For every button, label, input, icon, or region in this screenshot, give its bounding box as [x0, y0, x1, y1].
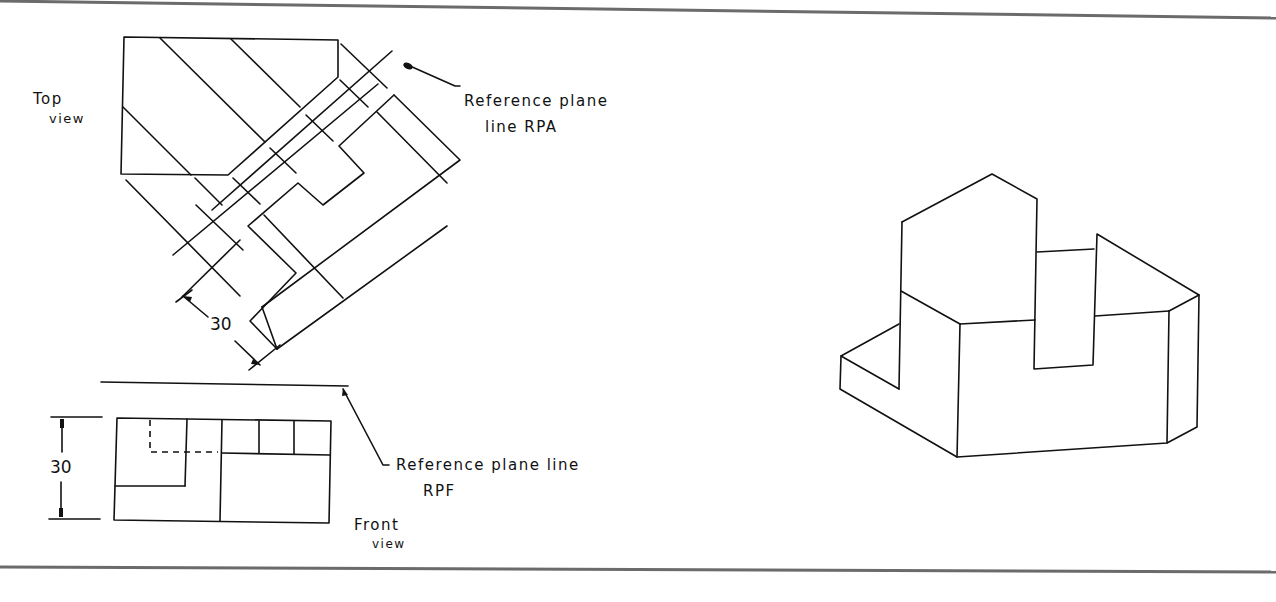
- reference-plane-line-rpf: [101, 382, 348, 386]
- drawing-canvas: [0, 0, 1276, 602]
- front-view-label-line1: Front: [354, 518, 399, 533]
- bottom-border: [0, 567, 1276, 572]
- front-view-dimension-value: 30: [50, 459, 72, 476]
- top-view: [121, 37, 460, 370]
- rpa-callout-line1: Reference plane: [464, 94, 608, 109]
- rpf-leader: [343, 389, 389, 465]
- top-view-label-line2: view: [49, 112, 85, 125]
- top-view-dimension-value: 30: [210, 316, 232, 333]
- rpa-callout-line2: line RPA: [485, 120, 558, 135]
- top-view-label-line1: Top: [33, 92, 63, 107]
- auxiliary-view-outline: [262, 95, 460, 307]
- rpf-callout-line1: Reference plane line: [396, 458, 580, 473]
- rpa-leader: [410, 66, 460, 86]
- isometric-view: [840, 174, 1199, 457]
- front-view-label-line2: view: [372, 538, 406, 550]
- top-border: [0, 1, 1276, 18]
- rpf-callout-line2: RPF: [423, 484, 456, 499]
- front-view: [49, 417, 331, 523]
